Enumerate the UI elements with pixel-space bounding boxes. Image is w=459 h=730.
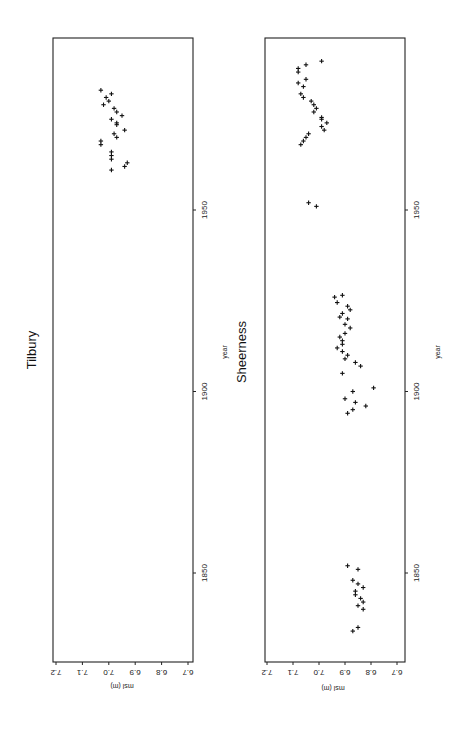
data-point-plus-marker [361,585,365,589]
data-point-plus-marker [348,308,352,312]
data-point-plus-marker [345,317,349,321]
tilbury-plot-frame [53,38,193,662]
data-point-plus-marker [351,389,355,393]
data-point-plus-marker [356,625,360,629]
msl-tick-label: 6.8 [365,668,377,677]
data-point-plus-marker [343,322,347,326]
msl-tick-label: 7.2 [50,668,62,677]
data-point-plus-marker [343,397,347,401]
msl-tick-label: 6.7 [391,668,403,677]
data-point-plus-marker [112,106,116,110]
data-point-plus-marker [340,311,344,315]
data-point-plus-marker [125,161,129,165]
msl-tick-label: 6.9 [339,668,351,677]
data-point-plus-marker [371,386,375,390]
data-point-plus-marker [104,95,108,99]
data-point-plus-marker [335,300,339,304]
data-point-plus-marker [299,92,303,96]
data-point-plus-marker [304,77,308,81]
data-point-plus-marker [338,335,342,339]
msl-tick-label: 7.1 [76,668,88,677]
data-point-plus-marker [122,128,126,132]
data-point-plus-marker [340,371,344,375]
data-point-plus-marker [348,326,352,330]
data-point-plus-marker [301,95,305,99]
data-point-plus-marker [353,589,357,593]
data-point-plus-marker [358,364,362,368]
tilbury-msl-axis: 6.76.86.97.07.17.2 [50,662,194,677]
sheerness-msl-axis: 6.76.86.97.07.17.2 [261,662,403,677]
data-point-plus-marker [309,99,313,103]
tilbury-points [99,88,130,172]
data-point-plus-marker [299,142,303,146]
data-point-plus-marker [314,106,318,110]
data-point-plus-marker [345,411,349,415]
data-point-plus-marker [306,201,310,205]
msl-tick-label: 7.1 [287,668,299,677]
data-point-plus-marker [356,582,360,586]
data-point-plus-marker [345,304,349,308]
sheerness-year-axis: 185019001950 [405,201,421,582]
data-point-plus-marker [340,349,344,353]
data-point-plus-marker [312,110,316,114]
data-point-plus-marker [304,135,308,139]
data-point-plus-marker [332,295,336,299]
msl-tick-label: 7.0 [103,668,115,677]
data-point-plus-marker [314,204,318,208]
data-point-plus-marker [356,567,360,571]
data-point-plus-marker [351,578,355,582]
year-tick-label: 1950 [200,201,209,219]
data-point-plus-marker [296,81,300,85]
data-point-plus-marker [345,564,349,568]
data-point-plus-marker [345,353,349,357]
year-tick-label: 1900 [412,382,421,400]
data-point-plus-marker [109,168,113,172]
data-point-plus-marker [109,117,113,121]
data-point-plus-marker [99,139,103,143]
data-point-plus-marker [301,139,305,143]
data-point-plus-marker [122,164,126,168]
data-point-plus-marker [115,110,119,114]
sheerness-msl-axis-label: msl (m) [321,684,344,692]
data-point-plus-marker [351,629,355,633]
sheerness-points [296,59,376,633]
data-point-plus-marker [338,315,342,319]
data-point-plus-marker [325,121,329,125]
data-point-plus-marker [340,293,344,297]
msl-tick-label: 6.7 [182,668,194,677]
data-point-plus-marker [296,66,300,70]
data-point-plus-marker [343,357,347,361]
year-tick-label: 1850 [412,564,421,582]
data-point-plus-marker [107,99,111,103]
data-point-plus-marker [312,103,316,107]
data-point-plus-marker [353,360,357,364]
data-point-plus-marker [101,103,105,107]
sheerness-plot-frame [265,38,405,662]
sheerness-title: Sheerness [234,320,249,383]
tilbury-panel: 6.76.86.97.07.17.2 185019001950 msl (m) … [24,38,229,690]
data-point-plus-marker [112,132,116,136]
year-tick-label: 1950 [412,201,421,219]
tilbury-title: Tilbury [24,330,39,369]
tilbury-year-axis: 185019001950 [193,201,209,582]
data-point-plus-marker [356,603,360,607]
data-point-plus-marker [343,331,347,335]
sheerness-year-axis-label: year [434,345,442,359]
data-point-plus-marker [335,346,339,350]
tilbury-msl-axis-label: msl (m) [110,682,133,690]
data-point-plus-marker [99,88,103,92]
data-point-plus-marker [306,132,310,136]
data-point-plus-marker [109,150,113,154]
data-point-plus-marker [358,596,362,600]
msl-tick-label: 6.8 [155,668,167,677]
data-point-plus-marker [340,338,344,342]
data-point-plus-marker [109,92,113,96]
data-point-plus-marker [319,59,323,63]
msl-tick-label: 7.2 [261,668,273,677]
sheerness-panel: 6.76.86.97.07.17.2 185019001950 msl (m) … [234,38,442,692]
tilbury-year-axis-label: year [221,345,229,359]
data-point-plus-marker [361,607,365,611]
data-point-plus-marker [351,407,355,411]
data-point-plus-marker [353,400,357,404]
data-point-plus-marker [319,124,323,128]
